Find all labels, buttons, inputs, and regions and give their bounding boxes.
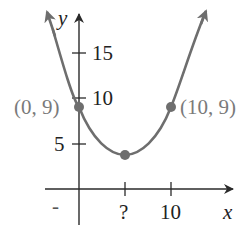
point-label-right: (10, 9) bbox=[180, 95, 236, 119]
parabola-graph: 15 10 5 ? 10 - x y (0, 9) (10, 9) bbox=[0, 0, 248, 241]
x-tick-label-10: 10 bbox=[160, 200, 181, 224]
point-0-9 bbox=[74, 102, 84, 112]
y-axis-label: y bbox=[56, 6, 68, 30]
parabola-curve bbox=[53, 16, 204, 155]
y-tick-label-5: 5 bbox=[54, 132, 65, 156]
point-10-9 bbox=[166, 102, 176, 112]
x-axis-label: x bbox=[222, 200, 233, 224]
x-tick-label-question: ? bbox=[119, 200, 128, 224]
y-tick-label-15: 15 bbox=[92, 41, 113, 65]
right-curve-arrow-icon bbox=[201, 11, 206, 24]
y-tick-label-10: 10 bbox=[92, 86, 113, 110]
left-curve-arrow-icon bbox=[47, 12, 55, 36]
point-vertex bbox=[120, 150, 130, 160]
point-label-left: (0, 9) bbox=[14, 95, 60, 119]
stray-dash-mark: - bbox=[52, 194, 59, 218]
